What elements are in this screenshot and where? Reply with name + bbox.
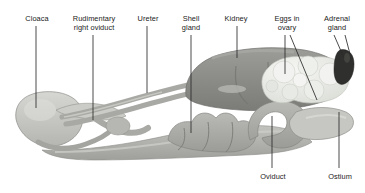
label-rudimentary-right-oviduct: Rudimentary right oviduct — [57, 14, 131, 32]
structure-shell-gland — [168, 113, 256, 152]
label-adrenal-gland: Adrenal gland — [314, 14, 360, 32]
structure-adrenal-gland — [334, 50, 354, 85]
label-kidney: Kidney — [214, 14, 258, 23]
diagram-canvas: Cloaca Rudimentary right oviduct Ureter … — [0, 0, 365, 193]
structure-ostium — [290, 108, 354, 140]
label-eggs-in-ovary: Eggs in ovary — [265, 14, 309, 32]
label-cloaca: Cloaca — [14, 14, 60, 23]
label-ureter: Ureter — [126, 14, 170, 23]
label-ostium: Ostium — [318, 172, 362, 181]
label-oviduct: Oviduct — [250, 172, 296, 181]
label-shell-gland: Shell gland — [172, 14, 210, 32]
